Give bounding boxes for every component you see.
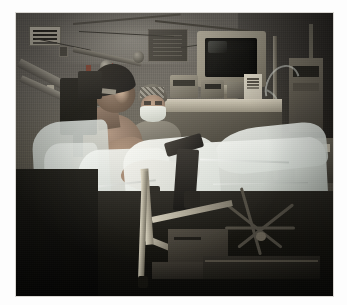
monitoring-device-display <box>173 80 195 85</box>
monitoring-device-display <box>205 84 221 89</box>
clinician-eyes <box>144 101 161 104</box>
wall-board-rows <box>153 35 182 56</box>
monitoring-device <box>201 80 223 98</box>
crt-monitor-glare <box>208 41 227 54</box>
chart-paper-lines <box>247 78 260 80</box>
support-pole-tip <box>138 276 148 287</box>
rolling-stool-hub <box>256 232 266 241</box>
chart-papers <box>244 74 261 99</box>
wall-board <box>148 29 188 62</box>
photo-stage: Operating room: awake patient in stereot… <box>0 0 347 305</box>
clinician-face-mask <box>140 106 165 122</box>
support-rod-clamp <box>184 191 200 208</box>
storage-box-edge <box>205 260 318 262</box>
equipment-cart-top <box>165 99 282 112</box>
rolling-stool <box>225 217 295 257</box>
storage-box <box>203 256 320 279</box>
monitoring-device <box>170 75 199 98</box>
operating-room-photograph <box>16 13 333 296</box>
storage-box-label <box>174 237 201 240</box>
floor-shadow-left <box>16 169 98 296</box>
head-fixation-block-upper <box>78 71 102 99</box>
storage-box <box>152 262 206 279</box>
wall-sign-text-lines <box>33 30 57 32</box>
monitoring-device <box>227 82 246 98</box>
wall-outlet <box>59 46 69 58</box>
stereotactic-arm-joint <box>133 51 144 62</box>
